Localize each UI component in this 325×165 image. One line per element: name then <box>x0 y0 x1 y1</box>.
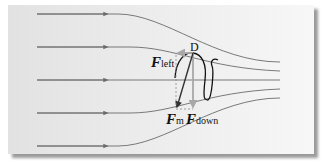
force-left-subscript: left <box>161 58 174 69</box>
force-m-symbol: F <box>166 111 176 127</box>
force-down-subscript: down <box>196 115 218 126</box>
force-left-symbol: F <box>151 54 161 70</box>
point-d-label: D <box>190 40 199 55</box>
force-down-label: Fdown <box>186 111 218 128</box>
force-left-label: Fleft <box>151 54 174 71</box>
field-diagram <box>0 0 325 165</box>
force-m-subscript: m <box>176 115 184 126</box>
force-down-symbol: F <box>186 111 196 127</box>
force-m-label: Fm <box>166 111 184 128</box>
field-lines <box>37 14 280 146</box>
